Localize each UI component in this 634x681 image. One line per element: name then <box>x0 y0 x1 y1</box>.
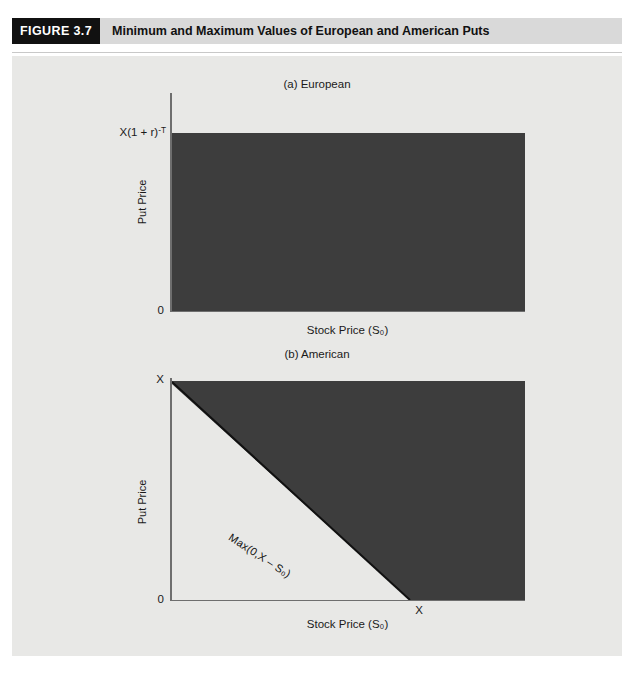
figure-page: FIGURE 3.7 Minimum and Maximum Values of… <box>0 0 634 681</box>
figure-number-tag: FIGURE 3.7 <box>12 18 100 44</box>
panel-a-y-axis <box>170 93 172 311</box>
panel-b-y-axis-title: Put Price <box>136 472 148 532</box>
figure-header-band: FIGURE 3.7 Minimum and Maximum Values of… <box>12 18 622 44</box>
panel-b-shaded-region <box>172 381 525 599</box>
panel-a-y-tick-zero: 0 <box>132 304 164 316</box>
figure-plate: (a) European X(1 + r)-T 0 Put Price Stoc… <box>12 56 622 656</box>
figure-title: Minimum and Maximum Values of European a… <box>112 24 489 38</box>
panel-b-region-polygon <box>172 381 525 600</box>
panel-a-y-tick-top: X(1 + r)-T <box>72 126 166 138</box>
panel-a-x-axis-title: Stock Price (S₀) <box>170 324 525 336</box>
panel-b-x-axis <box>170 600 525 601</box>
panel-b-y-tick-top: X <box>130 373 164 385</box>
plate-bottom-divider <box>12 656 622 657</box>
panel-b-y-tick-zero: 0 <box>130 593 164 605</box>
header-divider <box>12 52 622 53</box>
panel-b-x-axis-title: Stock Price (S₀) <box>170 618 525 630</box>
panel-a-x-axis <box>170 311 525 312</box>
panel-a-y-axis-title: Put Price <box>136 172 148 232</box>
panel-b-x-tick: X <box>407 604 431 616</box>
panel-b-subtitle: (b) American <box>12 348 622 360</box>
panel-b-y-axis <box>170 378 172 601</box>
panel-a-shaded-region <box>172 133 525 311</box>
panel-a-y-tick-top-base: X(1 + r) <box>120 126 159 138</box>
panel-a-y-tick-top-exponent: -T <box>158 126 166 135</box>
panel-b-region-svg <box>172 381 525 601</box>
panel-a-subtitle: (a) European <box>12 78 622 90</box>
